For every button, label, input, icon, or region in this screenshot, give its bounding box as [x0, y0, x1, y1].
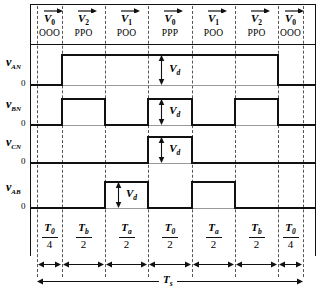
vector-letter: V [208, 12, 215, 24]
waveform-CN-level-0 [37, 162, 63, 164]
vd-label-CN: Vd [169, 143, 180, 157]
waveform-subscript: AN [11, 63, 21, 71]
vd-arrow-AN [157, 55, 166, 85]
vector-letter: V [285, 12, 292, 24]
vector-subscript: 0 [292, 18, 296, 27]
segment-duration-3: T02 [148, 222, 192, 250]
waveform-CN-level-2 [105, 162, 149, 164]
duration-arrow-1 [63, 260, 104, 269]
frame-top [30, 4, 315, 5]
segment-boundary-7 [303, 6, 304, 277]
segment-state-0: OOO [37, 28, 62, 38]
vector-letter: V [164, 12, 171, 24]
zero-label-BN: 0 [21, 119, 26, 128]
waveform-BN-level-4 [192, 124, 236, 126]
segment-state-5: PPO [235, 28, 278, 38]
waveform-AN-level-4 [192, 54, 236, 56]
duration-denominator: 2 [105, 238, 148, 250]
header-separator [30, 44, 315, 45]
waveform-AN-lead-in [30, 84, 39, 86]
vd-subscript: d [133, 193, 137, 202]
vector-subscript: 2 [85, 18, 89, 27]
waveform-AN-level-2 [105, 54, 149, 56]
segment-vector-5: V2 [235, 8, 278, 27]
duration-subscript: a [215, 227, 219, 236]
vd-symbol: V [169, 142, 176, 154]
waveform-AN-level-0 [37, 84, 63, 86]
vd-subscript: d [177, 110, 181, 119]
duration-symbol: T [285, 221, 292, 233]
duration-denominator: 2 [62, 238, 105, 250]
total-period-symbol: T [163, 273, 170, 285]
duration-symbol: T [78, 221, 85, 233]
duration-arrow-5 [236, 260, 277, 269]
waveform-subscript: BN [11, 105, 21, 113]
vector-letter: V [44, 12, 51, 24]
waveform-AB-level-0 [37, 207, 63, 209]
segment-duration-2: Ta2 [105, 222, 148, 250]
duration-symbol: T [208, 221, 215, 233]
waveform-label-AN: vAN [6, 56, 21, 71]
duration-arrow-2 [106, 260, 147, 269]
zero-label-AB: 0 [21, 202, 26, 211]
waveform-AN-level-1 [62, 54, 106, 56]
vector-letter: V [121, 12, 128, 24]
waveform-BN-level-5 [235, 98, 279, 100]
waveform-BN-edge-1 [61, 98, 63, 126]
segment-vector-1: V2 [62, 8, 105, 27]
duration-denominator: 4 [37, 238, 62, 250]
duration-denominator: 2 [192, 238, 235, 250]
segment-state-3: PPP [148, 28, 192, 38]
vector-subscript: 0 [172, 18, 176, 27]
duration-arrow-0 [38, 260, 61, 269]
total-period-label: Ts [159, 273, 177, 288]
duration-denominator: 2 [148, 238, 192, 250]
vd-subscript: d [177, 68, 181, 77]
waveform-BN-lead-out [303, 124, 315, 126]
waveform-AB-level-1 [62, 207, 106, 209]
waveform-AB-edge-2 [104, 181, 106, 209]
waveform-BN-lead-in [30, 124, 39, 126]
vector-subscript: 1 [128, 18, 132, 27]
duration-arrow-4 [193, 260, 234, 269]
vd-label-BN: Vd [169, 105, 180, 119]
waveform-BN-level-6 [278, 124, 304, 126]
vector-letter: V [78, 12, 85, 24]
waveform-CN-lead-in [30, 162, 39, 164]
segment-state-1: PPO [62, 28, 105, 38]
waveform-CN-edge-4 [191, 136, 193, 164]
segment-duration-0: T04 [37, 222, 62, 250]
waveform-label-AB: vAB [6, 181, 21, 196]
duration-arrow-3 [149, 260, 191, 269]
segment-duration-4: Ta2 [192, 222, 235, 250]
vd-arrow-AB [114, 182, 123, 208]
duration-subscript: 0 [171, 227, 175, 236]
waveform-AB-level-3 [148, 207, 193, 209]
waveform-AB-edge-5 [234, 181, 236, 209]
waveform-AN-edge-6 [277, 54, 279, 86]
waveform-AB-level-2 [105, 181, 149, 183]
duration-subscript: 0 [51, 227, 55, 236]
vector-subscript: 0 [51, 18, 55, 27]
segment-duration-5: Tb2 [235, 222, 278, 250]
waveform-subscript: AB [11, 188, 20, 196]
duration-arrow-6 [279, 260, 302, 269]
waveform-CN-level-3 [148, 136, 193, 138]
waveform-BN-level-3 [148, 98, 193, 100]
waveform-BN-level-1 [62, 98, 106, 100]
segment-vector-2: V1 [105, 8, 148, 27]
vector-subscript: 1 [215, 18, 219, 27]
waveform-CN-level-1 [62, 162, 106, 164]
vector-subscript: 2 [258, 18, 262, 27]
duration-subscript: b [85, 227, 89, 236]
duration-denominator: 2 [235, 238, 278, 250]
waveform-AN-lead-out [303, 84, 315, 86]
duration-symbol: T [121, 221, 128, 233]
waveform-AN-level-3 [148, 54, 193, 56]
waveform-AB-edge-3 [147, 181, 149, 209]
waveform-AN-edge-1 [61, 54, 63, 86]
svpwm-waveform-figure: V0OOOV2PPOV1POOV0PPPV1POOV2PPOV0OOOvAN0V… [0, 0, 330, 299]
segment-duration-6: T04 [278, 222, 303, 250]
vd-arrow-BN [157, 99, 166, 125]
waveform-BN-level-0 [37, 124, 63, 126]
